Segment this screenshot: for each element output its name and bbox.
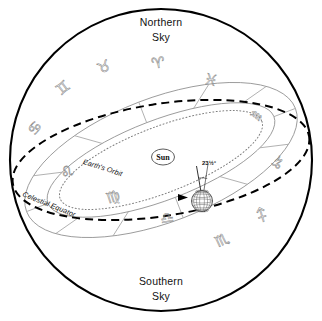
sun: Sun — [152, 149, 175, 165]
diagram-canvas: ♊ ♉ ♈ ♓ ♒ ♑ ♐ ♏ ♎ ♍ ♌ ♋ Sun Earth's Orbi… — [0, 0, 322, 321]
northern-sky-label-line2: Sky — [152, 31, 171, 43]
axial-tilt-label: 23½° — [202, 160, 217, 166]
sun-label: Sun — [156, 153, 170, 162]
zodiac-glyph-aries: ♈ — [150, 53, 166, 73]
celestial-sphere-diagram: ♊ ♉ ♈ ♓ ♒ ♑ ♐ ♏ ♎ ♍ ♌ ♋ Sun Earth's Orbi… — [0, 0, 322, 321]
earth-sphere — [192, 191, 213, 212]
northern-sky-label-line1: Northern — [140, 16, 182, 28]
southern-sky-label-line2: Sky — [152, 290, 171, 302]
southern-sky-label-line1: Southern — [139, 275, 183, 287]
